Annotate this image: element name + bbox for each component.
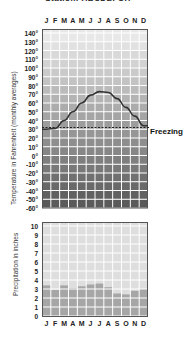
temperature-tick-label: 70° bbox=[28, 91, 38, 98]
temperature-tick-label: 80° bbox=[28, 82, 38, 89]
precipitation-tick-label: 4 bbox=[34, 277, 38, 284]
temperature-tick-label: -60° bbox=[26, 205, 38, 212]
temperature-tick-label: -40° bbox=[26, 187, 38, 194]
precipitation-tick-label: 5 bbox=[34, 268, 38, 275]
temperature-tick-label: -50° bbox=[26, 196, 38, 203]
temperature-tick-label: 90° bbox=[28, 73, 38, 80]
precipitation-tick-label: 0 bbox=[34, 313, 38, 320]
temperature-tick-label: 140° bbox=[25, 30, 38, 37]
temperature-tick-label: 130° bbox=[25, 38, 38, 45]
temperature-tick-label: 120° bbox=[25, 47, 38, 54]
temperature-axis-title: Temperature in Fahrenheit (monthly avera… bbox=[10, 71, 17, 205]
precipitation-tick-label: 3 bbox=[34, 286, 38, 293]
temperature-tick-label: 10° bbox=[28, 143, 38, 150]
precipitation-axis-title: Precipitation in inches bbox=[12, 233, 19, 296]
month-label: J bbox=[42, 17, 51, 24]
precipitation-chart bbox=[42, 222, 149, 318]
temperature-tick-label: 100° bbox=[25, 65, 38, 72]
month-label: N bbox=[130, 17, 139, 24]
temperature-tick-label: 20° bbox=[28, 135, 38, 142]
station-title: Station: ABCDEFGH bbox=[28, 0, 148, 3]
month-label: N bbox=[130, 320, 139, 327]
month-label: S bbox=[113, 17, 122, 24]
temperature-tick-label: 110° bbox=[25, 56, 38, 63]
temperature-tick-label: 50° bbox=[28, 108, 38, 115]
temperature-tick-label: 0° bbox=[32, 152, 38, 159]
month-label: D bbox=[139, 17, 148, 24]
month-label: O bbox=[121, 320, 130, 327]
month-label: F bbox=[51, 17, 60, 24]
month-labels-top: JFMAMJJASOND bbox=[42, 17, 148, 24]
month-label: J bbox=[42, 320, 51, 327]
month-label: J bbox=[95, 320, 104, 327]
temperature-chart bbox=[42, 29, 149, 210]
month-label: M bbox=[77, 320, 86, 327]
temperature-tick-label: 60° bbox=[28, 100, 38, 107]
month-label: J bbox=[86, 17, 95, 24]
month-label: M bbox=[60, 17, 69, 24]
month-label: A bbox=[68, 320, 77, 327]
freezing-label: Freezing bbox=[150, 127, 183, 136]
month-label: S bbox=[113, 320, 122, 327]
precipitation-tick-label: 7 bbox=[34, 250, 38, 257]
precipitation-tick-label: 9 bbox=[34, 232, 38, 239]
month-label: A bbox=[68, 17, 77, 24]
month-label: A bbox=[104, 17, 113, 24]
temperature-tick-label: -20° bbox=[26, 170, 38, 177]
temperature-tick-label: 30° bbox=[28, 126, 38, 133]
temperature-tick-label: 40° bbox=[28, 117, 38, 124]
precipitation-tick-label: 1 bbox=[34, 304, 38, 311]
month-label: J bbox=[95, 17, 104, 24]
temperature-tick-label: -30° bbox=[26, 178, 38, 185]
month-label: J bbox=[86, 320, 95, 327]
month-label: A bbox=[104, 320, 113, 327]
precipitation-tick-label: 10 bbox=[31, 223, 38, 230]
month-label: O bbox=[121, 17, 130, 24]
month-label: M bbox=[60, 320, 69, 327]
precipitation-tick-label: 2 bbox=[34, 295, 38, 302]
temperature-tick-label: -10° bbox=[26, 161, 38, 168]
month-labels-bottom: JFMAMJJASOND bbox=[42, 320, 148, 327]
precipitation-tick-label: 8 bbox=[34, 241, 38, 248]
precipitation-tick-label: 6 bbox=[34, 259, 38, 266]
month-label: F bbox=[51, 320, 60, 327]
month-label: M bbox=[77, 17, 86, 24]
month-label: D bbox=[139, 320, 148, 327]
